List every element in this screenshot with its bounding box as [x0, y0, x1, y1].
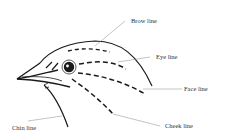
label-brow-line: Brow line: [131, 18, 157, 25]
lore-dashes: [46, 62, 58, 70]
bird-head-illustration: [0, 0, 234, 140]
label-eye-line: Eye line: [156, 54, 177, 61]
label-cheek-line: Cheek line: [165, 123, 193, 130]
leader-chin: [28, 116, 62, 121]
chin-stripe: [44, 85, 68, 127]
beak-lower: [17, 79, 70, 87]
eye-highlight: [66, 65, 69, 68]
eye: [64, 62, 74, 72]
label-chin-line: Chin line: [12, 125, 36, 132]
label-face-line: Face line: [184, 86, 208, 93]
leader-brow: [95, 21, 125, 46]
leader-cheek: [113, 114, 160, 126]
eye-stripe: [79, 62, 126, 69]
brow-stripe: [68, 49, 110, 52]
cheek-stripe: [72, 79, 113, 114]
